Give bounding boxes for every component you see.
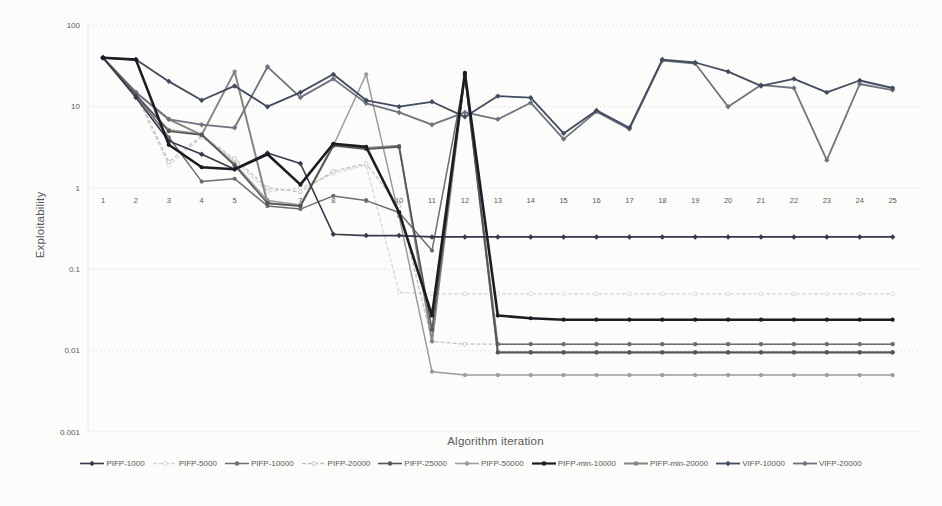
x-tick-label: 13 xyxy=(494,196,502,205)
series-marker xyxy=(594,318,598,322)
series-marker xyxy=(759,318,763,322)
series-marker xyxy=(792,292,796,296)
series-marker xyxy=(825,350,829,354)
x-tick-label: 11 xyxy=(428,196,436,205)
x-tick-label: 23 xyxy=(823,196,831,205)
y-tick-label: 0.1 xyxy=(69,265,81,274)
legend-marker-VIFP-20000 xyxy=(793,459,817,468)
x-tick-label: 2 xyxy=(134,196,138,205)
series-marker xyxy=(627,373,631,377)
series-marker xyxy=(627,318,631,322)
series-marker xyxy=(825,292,829,296)
legend-item-PIFP-50000: PIFP-50000 xyxy=(455,459,524,468)
series-marker xyxy=(759,350,763,354)
series-marker xyxy=(890,234,895,239)
series-marker xyxy=(233,157,237,161)
series-marker xyxy=(759,373,763,377)
series-line-PIFP-50000 xyxy=(103,58,893,375)
series-marker xyxy=(660,342,664,346)
series-marker xyxy=(529,373,533,377)
series-marker xyxy=(693,234,698,239)
series-marker xyxy=(693,350,697,354)
legend-label: PIFP-min-20000 xyxy=(650,459,708,468)
series-marker xyxy=(463,373,467,377)
series-marker xyxy=(891,350,895,354)
series-marker xyxy=(825,373,829,377)
x-tick-label: 5 xyxy=(233,196,237,205)
series-marker xyxy=(331,194,335,198)
legend-item-VIFP-20000: VIFP-20000 xyxy=(793,459,862,468)
legend-label: PIFP-min-10000 xyxy=(558,459,616,468)
series-marker xyxy=(891,292,895,296)
legend-label: PIFP-10000 xyxy=(251,459,294,468)
series-marker xyxy=(758,234,763,239)
series-marker xyxy=(430,339,434,343)
series-marker xyxy=(331,232,336,237)
series-marker xyxy=(529,350,533,354)
series-line-VIFP-20000 xyxy=(103,58,893,160)
series-marker xyxy=(693,318,697,322)
series-marker xyxy=(627,234,632,239)
series-marker xyxy=(298,204,302,208)
series-marker xyxy=(595,292,599,296)
series-marker xyxy=(759,292,763,296)
legend-marker-PIFP-min-10000 xyxy=(532,459,556,468)
series-marker xyxy=(726,350,730,354)
x-tick-label: 12 xyxy=(461,196,469,205)
series-marker xyxy=(364,145,368,149)
series-marker xyxy=(430,313,434,317)
series-marker xyxy=(858,350,862,354)
series-marker xyxy=(660,350,664,354)
series-marker xyxy=(791,76,796,81)
series-marker xyxy=(266,190,270,194)
y-axis-title: Exploitability xyxy=(34,150,50,300)
series-marker xyxy=(265,152,269,156)
series-marker xyxy=(463,292,467,296)
series-marker xyxy=(463,71,467,75)
series-marker xyxy=(465,461,469,465)
series-marker xyxy=(200,165,204,169)
series-marker xyxy=(167,160,171,164)
series-marker xyxy=(233,167,237,171)
legend-label: PIFP-25000 xyxy=(404,459,447,468)
x-tick-label: 3 xyxy=(167,196,171,205)
series-marker xyxy=(627,350,631,354)
x-tick-label: 1 xyxy=(101,196,105,205)
series-marker xyxy=(101,56,105,60)
legend-item-PIFP-10000: PIFP-10000 xyxy=(225,459,294,468)
series-marker xyxy=(858,318,862,322)
series-marker xyxy=(298,183,302,187)
series-marker xyxy=(726,342,730,346)
series-marker xyxy=(496,292,500,296)
legend-item-PIFP-25000: PIFP-25000 xyxy=(378,459,447,468)
series-marker xyxy=(857,78,862,83)
x-tick-label: 19 xyxy=(691,196,699,205)
series-marker xyxy=(529,292,533,296)
legend-item-PIFP-min-20000: PIFP-min-20000 xyxy=(624,459,708,468)
legend-item-VIFP-10000: VIFP-10000 xyxy=(716,459,785,468)
series-marker xyxy=(858,292,862,296)
y-tick-label: 0.01 xyxy=(64,346,80,355)
series-marker xyxy=(891,373,895,377)
exploitability-chart: 1001010.10.010.0011234567891011121314151… xyxy=(0,0,942,506)
series-marker xyxy=(660,234,665,239)
series-marker xyxy=(562,318,566,322)
series-line-PIFP-1000 xyxy=(103,58,893,237)
x-tick-label: 4 xyxy=(200,196,204,205)
series-marker xyxy=(200,133,204,137)
series-marker xyxy=(693,292,697,296)
series-marker xyxy=(496,313,500,317)
series-marker xyxy=(233,177,237,181)
series-marker xyxy=(397,290,401,294)
legend-marker-VIFP-10000 xyxy=(716,459,740,468)
series-marker xyxy=(163,462,167,466)
series-marker xyxy=(167,129,171,133)
x-tick-label: 16 xyxy=(592,196,600,205)
legend-item-PIFP-20000: PIFP-20000 xyxy=(302,459,371,468)
series-marker xyxy=(562,342,566,346)
series-marker xyxy=(825,318,829,322)
series-marker xyxy=(134,57,138,61)
x-tick-label: 18 xyxy=(658,196,666,205)
series-marker xyxy=(495,234,500,239)
plot-svg: 1001010.10.010.0011234567891011121314151… xyxy=(0,0,942,506)
